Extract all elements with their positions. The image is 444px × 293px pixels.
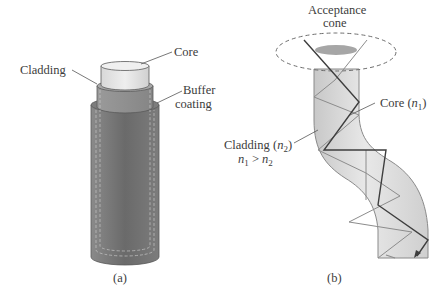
cladding-label: Cladding (20, 63, 67, 77)
panel-a-caption: (a) (113, 271, 127, 285)
core-n1-label: Core (n1) (380, 96, 427, 112)
acceptance-label-line1: Acceptance (308, 3, 367, 17)
acceptance-label-line2: cone (323, 16, 347, 30)
core-label: Core (174, 45, 199, 59)
buffer-coating (91, 98, 159, 265)
panel-b-caption: (b) (327, 271, 342, 285)
cladding-leader-line (72, 70, 97, 84)
core-layer (101, 62, 149, 91)
core-leader-line (141, 52, 172, 64)
core-face (315, 45, 357, 55)
optical-fiber-diagram: Core Cladding Buffer coating (a) Accepta… (0, 0, 444, 293)
refractive-index-inequality: n1 > n2 (238, 152, 273, 168)
panel-b-total-internal-reflection: Acceptance cone Core (n1) Cladding (n2) … (224, 3, 428, 285)
panel-a-fiber-cross-section: Core Cladding Buffer coating (a) (20, 45, 216, 285)
cladding-n2-leader-line (294, 130, 318, 143)
buffer-label-line2: coating (175, 97, 213, 111)
buffer-label-line1: Buffer (183, 83, 216, 97)
